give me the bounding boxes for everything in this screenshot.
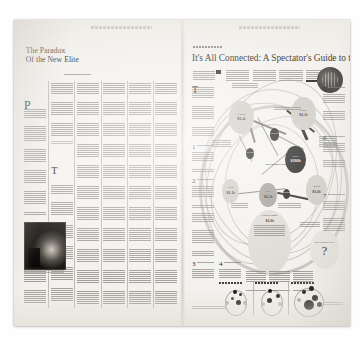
annotation-block	[300, 222, 320, 227]
column-rule	[127, 81, 128, 307]
drop-cap: T	[51, 164, 58, 176]
body-subhead	[51, 141, 73, 145]
scenario-panels	[219, 282, 323, 316]
column-rule	[74, 81, 75, 307]
question-mark-icon: ?	[322, 244, 328, 257]
left-page-headline: The Paradox Of the New Elite	[26, 46, 127, 64]
euro-crisis-network-diagram: Germany $1.2t France $1.1t Greece $380b …	[199, 81, 343, 277]
annotation-block	[212, 140, 231, 148]
body-column	[192, 213, 214, 256]
right-page: It's All Connected: A Spectator's Guide …	[182, 20, 350, 326]
spread-gutter	[180, 20, 185, 326]
footnote	[323, 302, 343, 305]
annotation-block	[231, 203, 248, 209]
panel-title	[291, 282, 314, 284]
section-kicker	[193, 46, 223, 48]
body-column	[77, 83, 99, 308]
body-column	[51, 83, 73, 138]
drop-cap: P	[24, 98, 31, 113]
left-headline-line2: Of the New Elite	[26, 55, 127, 64]
center-label: The Market Now	[265, 163, 286, 166]
panel-title	[219, 282, 242, 284]
newspaper-spread: The Paradox Of the New Elite P T	[14, 20, 350, 326]
annotation-block	[274, 107, 301, 111]
photo-caption	[24, 270, 64, 273]
body-column	[24, 271, 46, 308]
body-column	[24, 109, 46, 216]
deck-marker-icon	[216, 70, 221, 74]
scenario-panel-2[interactable]	[255, 282, 287, 316]
drop-cap: T	[192, 84, 198, 95]
scenario-panel-3[interactable]	[291, 282, 323, 316]
left-page: The Paradox Of the New Elite P T	[14, 20, 182, 326]
scenario-panel-1[interactable]	[219, 282, 251, 316]
node-portugal[interactable]: Portugal	[270, 128, 279, 141]
left-page-folio	[91, 26, 151, 29]
node-belgium[interactable]: Belgium	[283, 189, 290, 199]
left-page-photo	[24, 222, 66, 270]
left-page-byline	[64, 74, 91, 76]
body-column	[155, 83, 177, 308]
node-european-banks[interactable]: European Banks $2.6t	[248, 210, 291, 274]
node-germany[interactable]: Germany $1.2t	[229, 101, 254, 134]
column-rule	[48, 81, 49, 307]
node-spain[interactable]: Spain $1.1t	[222, 179, 239, 202]
body-column	[103, 83, 125, 308]
node-italy[interactable]: Italy $2.1t	[259, 183, 276, 206]
node-france[interactable]: France $1.1t	[291, 97, 316, 130]
left-headline-line1: The Paradox	[26, 46, 127, 55]
column-rule	[153, 81, 154, 307]
column-rule	[101, 81, 102, 307]
headline-deck	[193, 71, 215, 81]
node-greece[interactable]: Greece $380b	[285, 146, 305, 173]
annotation-block	[232, 83, 258, 89]
main-headline: It's All Connected: A Spectator's Guide …	[192, 53, 347, 63]
panel-title	[255, 282, 278, 284]
screenshot-root: The Paradox Of the New Elite P T	[0, 0, 363, 346]
right-page-folio	[239, 26, 299, 29]
node-what-happens-next[interactable]: What Happens Next? ?	[310, 230, 339, 269]
annotation-block	[278, 203, 301, 208]
body-column	[129, 83, 151, 308]
